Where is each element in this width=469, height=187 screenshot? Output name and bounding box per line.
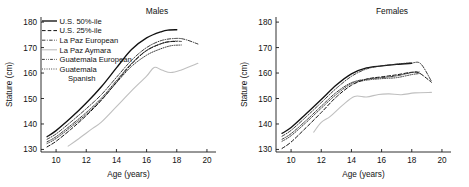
y-tick-label: 160 xyxy=(23,69,37,78)
males-plot-svg: 130140150160170180101214161820Age (years… xyxy=(0,0,234,187)
y-tick-label: 180 xyxy=(258,18,272,27)
x-tick-label: 10 xyxy=(287,156,297,165)
y-tick-label: 140 xyxy=(23,120,37,129)
legend-label-1: U.S. 50%-ile xyxy=(60,17,102,26)
plot-group: 130140150160170180101214161820Age (years… xyxy=(5,6,216,179)
legend-label-4: La Paz Aymara xyxy=(60,46,112,55)
series-line-guatemala-european xyxy=(282,72,419,139)
panel-females: 130140150160170180101214161820Age (years… xyxy=(235,0,469,187)
females-plot-svg: 130140150160170180101214161820Age (years… xyxy=(235,0,469,187)
y-tick-label: 170 xyxy=(23,44,37,53)
x-axis-title: Age (years) xyxy=(342,170,385,179)
y-tick-label: 150 xyxy=(23,95,37,104)
legend-label-6: Guatemala xyxy=(60,65,98,74)
x-tick-label: 14 xyxy=(112,156,122,165)
plot-group: 130140150160170180101214161820Age (years… xyxy=(240,6,451,179)
x-tick-label: 20 xyxy=(437,156,447,165)
x-tick-label: 20 xyxy=(202,156,212,165)
x-tick-label: 18 xyxy=(407,156,417,165)
y-tick-label: 130 xyxy=(23,145,37,154)
panel-title: Males xyxy=(146,6,168,16)
legend-label-5: Guatemala European xyxy=(60,55,132,64)
y-axis-title: Stature (cm) xyxy=(240,62,249,107)
series-line-guatemala-spanish xyxy=(282,74,419,142)
x-tick-label: 10 xyxy=(52,156,62,165)
panel-title: Females xyxy=(376,6,408,16)
x-tick-label: 18 xyxy=(172,156,182,165)
y-tick-label: 160 xyxy=(258,69,272,78)
x-tick-label: 16 xyxy=(142,156,152,165)
y-axis-title: Stature (cm) xyxy=(5,62,14,107)
x-tick-label: 14 xyxy=(347,156,357,165)
panel-males: 130140150160170180101214161820Age (years… xyxy=(0,0,234,187)
x-axis-title: Age (years) xyxy=(107,170,150,179)
x-tick-label: 12 xyxy=(317,156,327,165)
x-tick-label: 12 xyxy=(82,156,92,165)
y-tick-label: 170 xyxy=(258,44,272,53)
x-tick-label: 16 xyxy=(377,156,387,165)
series-line-u-s-50-ile xyxy=(282,63,412,133)
legend-label-3: La Paz European xyxy=(60,36,119,45)
y-tick-label: 130 xyxy=(258,145,272,154)
y-tick-label: 140 xyxy=(258,120,272,129)
stature-by-age-figure: 130140150160170180101214161820Age (years… xyxy=(0,0,469,187)
legend-label-2: U.S. 25%-ile xyxy=(60,26,102,35)
legend-label-6-cont: Spanish xyxy=(68,74,95,83)
y-tick-label: 180 xyxy=(23,18,37,27)
y-tick-label: 150 xyxy=(258,95,272,104)
series-line-u-s-25-ile xyxy=(282,72,431,149)
